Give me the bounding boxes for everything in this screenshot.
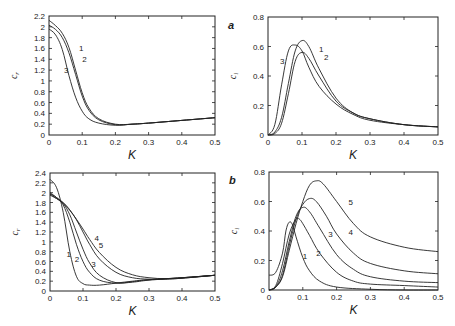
y-tick-label: 1.4 <box>34 55 46 64</box>
x-tick-label: 0.4 <box>398 138 410 147</box>
curve-3 <box>49 29 215 125</box>
y-tick-label: 0.4 <box>34 109 46 118</box>
x-tick-label: 0 <box>266 138 271 147</box>
y-tick-label: 0.2 <box>254 257 266 266</box>
y-tick-label: 1 <box>42 238 47 247</box>
x-tick-label: 0 <box>47 138 52 147</box>
y-axis-label: cr <box>9 228 22 235</box>
curve-label-5: 5 <box>99 241 104 250</box>
chart-top-right-ci: 00.10.20.30.40.500.20.40.60.8Kcia123 <box>227 13 444 162</box>
y-tick-label: 1.6 <box>35 208 47 217</box>
x-axis-label: K <box>349 148 358 162</box>
curve-5 <box>269 181 438 290</box>
x-tick-label: 0.2 <box>110 138 122 147</box>
x-tick-label: 0.5 <box>209 294 221 303</box>
y-tick-label: 0.2 <box>35 277 47 286</box>
y-axis-label: ci <box>227 73 240 79</box>
x-tick-label: 0.5 <box>209 138 221 147</box>
chart-bottom-left-cr: 00.10.20.30.40.500.20.40.60.811.21.41.61… <box>9 169 221 318</box>
x-tick-label: 0.1 <box>77 138 89 147</box>
y-tick-label: 0 <box>261 286 266 295</box>
x-tick-label: 0.3 <box>365 293 377 302</box>
x-tick-label: 0.1 <box>297 293 309 302</box>
curve-label-4: 4 <box>348 228 353 237</box>
curve-label-3: 3 <box>91 260 96 269</box>
x-tick-label: 0.2 <box>330 138 342 147</box>
y-axis-label: cr <box>8 72 21 79</box>
y-tick-label: 1.8 <box>34 34 46 43</box>
y-tick-label: 0.6 <box>35 258 47 267</box>
x-tick-label: 0.3 <box>143 294 155 303</box>
panel-label: a <box>228 19 234 31</box>
curve-label-2: 2 <box>324 53 329 62</box>
curve-4 <box>50 195 215 279</box>
chart-bottom-right-ci: 00.10.20.30.40.500.20.40.60.8Kcib12345 <box>228 168 444 317</box>
curve-label-5: 5 <box>348 198 353 207</box>
x-tick-label: 0.2 <box>110 294 122 303</box>
x-tick-label: 0.3 <box>364 138 376 147</box>
curve-1 <box>50 179 215 285</box>
x-tick-label: 0.5 <box>432 293 444 302</box>
y-tick-label: 0 <box>42 287 47 296</box>
y-tick-label: 0.6 <box>253 43 265 52</box>
curve-1 <box>269 222 438 290</box>
x-axis-label: K <box>128 304 137 318</box>
y-tick-label: 0.6 <box>34 99 46 108</box>
curve-4 <box>269 198 438 290</box>
curve-2 <box>268 52 438 135</box>
curve-label-2: 2 <box>82 55 87 64</box>
curve-2 <box>50 193 215 284</box>
y-tick-label: 1.2 <box>34 66 46 75</box>
x-tick-label: 0.1 <box>296 138 308 147</box>
y-tick-label: 0.8 <box>34 88 46 97</box>
x-tick-label: 0 <box>267 293 272 302</box>
curve-2 <box>49 25 215 125</box>
curve-1 <box>49 20 215 124</box>
curve-label-3: 3 <box>280 57 285 66</box>
curve-label-3: 3 <box>64 66 69 75</box>
curve-label-1: 1 <box>79 44 84 53</box>
y-tick-label: 1.2 <box>35 228 47 237</box>
y-tick-label: 1 <box>41 77 46 86</box>
curve-1 <box>268 40 438 135</box>
y-tick-label: 0.4 <box>254 227 266 236</box>
curve-label-1: 1 <box>303 252 308 261</box>
y-tick-label: 0.4 <box>253 72 265 81</box>
y-tick-label: 0.2 <box>34 120 46 129</box>
plot-frame <box>49 16 215 135</box>
y-tick-label: 1.8 <box>35 199 47 208</box>
x-tick-label: 0 <box>48 294 53 303</box>
y-tick-label: 0 <box>260 131 265 140</box>
y-tick-label: 1.4 <box>35 218 47 227</box>
x-tick-label: 0.4 <box>176 294 188 303</box>
curve-label-2: 2 <box>75 255 80 264</box>
y-tick-label: 0.4 <box>35 267 47 276</box>
y-tick-label: 1.6 <box>34 44 46 53</box>
curve-5 <box>50 194 215 279</box>
y-tick-label: 0.8 <box>254 168 266 177</box>
plot-frame <box>50 173 215 291</box>
y-tick-label: 2.2 <box>34 12 46 21</box>
x-tick-label: 0.1 <box>77 294 89 303</box>
y-axis-label: ci <box>228 228 241 234</box>
y-tick-label: 0.6 <box>254 198 266 207</box>
x-tick-label: 0.4 <box>399 293 411 302</box>
y-tick-label: 2 <box>41 23 46 32</box>
x-tick-label: 0.2 <box>331 293 343 302</box>
figure: 00.10.20.30.40.500.20.40.60.811.21.41.61… <box>0 0 455 326</box>
x-tick-label: 0.3 <box>143 138 155 147</box>
y-tick-label: 2 <box>42 189 47 198</box>
y-tick-label: 0 <box>41 131 46 140</box>
curve-label-2: 2 <box>316 249 321 258</box>
chart-top-left-cr: 00.10.20.30.40.500.20.40.60.811.21.41.61… <box>8 12 221 162</box>
y-tick-label: 2.4 <box>35 169 47 178</box>
y-tick-label: 2.2 <box>35 179 47 188</box>
x-tick-label: 0.5 <box>432 138 444 147</box>
y-tick-label: 0.8 <box>35 248 47 257</box>
panel-label: b <box>229 174 236 186</box>
y-tick-label: 0.8 <box>253 13 265 22</box>
x-axis-label: K <box>128 148 137 162</box>
y-tick-label: 0.2 <box>253 102 265 111</box>
curve-label-3: 3 <box>328 230 333 239</box>
x-tick-label: 0.4 <box>176 138 188 147</box>
